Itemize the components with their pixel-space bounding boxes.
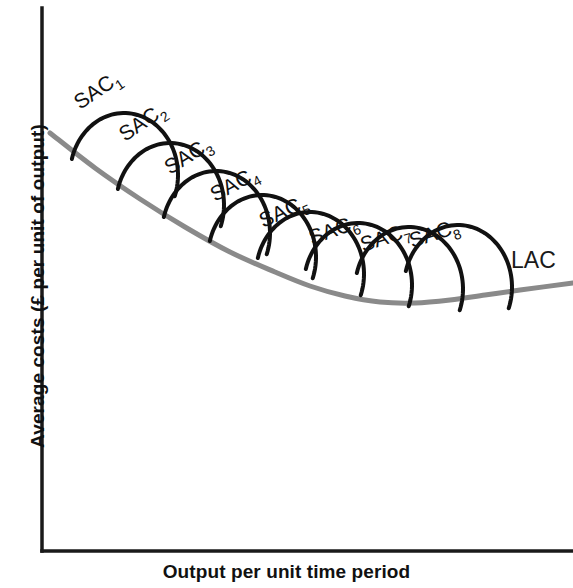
sac-label-6: SAC6: [306, 210, 364, 254]
chart-canvas: SAC1SAC2SAC3SAC4SAC5SAC6SAC7SAC8 LAC: [0, 0, 573, 588]
x-axis-title: Output per unit time period: [0, 561, 573, 583]
y-axis-title: Average costs (£ per unit of output): [27, 16, 49, 556]
cost-curve-figure: SAC1SAC2SAC3SAC4SAC5SAC6SAC7SAC8 LAC Out…: [0, 0, 573, 588]
sac-label-8: SAC8: [406, 214, 463, 256]
lac-curve-label: LAC: [511, 247, 556, 273]
sac-label-1: SAC1: [69, 66, 127, 118]
